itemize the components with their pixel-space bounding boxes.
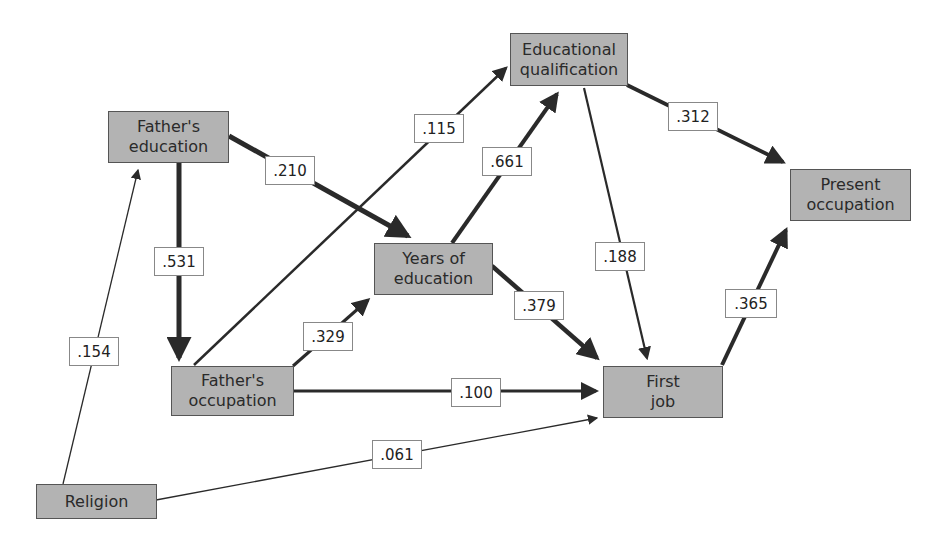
node-present-occupation: Present occupation (790, 169, 911, 221)
node-label-line2: occupation (188, 391, 276, 411)
coef-label-329: .329 (303, 322, 353, 351)
coef-label-061: .061 (372, 440, 422, 469)
node-label-line2: education (394, 269, 473, 289)
node-label-line2: job (651, 392, 675, 412)
node-label-line2: occupation (806, 195, 894, 215)
node-label-line1: Father's (137, 117, 200, 137)
coef-label-379: .379 (514, 291, 564, 320)
edge-educational-qualification-first-job (584, 88, 647, 358)
coef-label-115: .115 (414, 114, 464, 143)
edge-fathers-occupation-educational-qualification (194, 68, 506, 365)
node-label-line2: qualification (520, 60, 618, 80)
coef-label-210: .210 (265, 156, 315, 185)
node-label-line1: Present (820, 175, 880, 195)
node-religion: Religion (36, 484, 157, 519)
node-fathers-education: Father's education (108, 111, 229, 163)
node-label-line1: Educational (522, 40, 616, 60)
node-label-line1: First (646, 372, 680, 392)
coef-label-188: .188 (595, 242, 645, 271)
node-label-line2: education (129, 137, 208, 157)
coef-label-312: .312 (668, 102, 718, 131)
node-label-line1: Religion (65, 492, 129, 512)
node-fathers-occupation: Father's occupation (171, 366, 294, 416)
node-label-line1: Years of (402, 249, 465, 269)
coef-label-661: .661 (482, 147, 532, 176)
edge-religion-fathers-education (63, 170, 138, 484)
coef-label-365: .365 (725, 289, 777, 318)
coef-label-154: .154 (69, 337, 119, 366)
node-label-line1: Father's (201, 371, 264, 391)
coef-label-100: .100 (451, 378, 501, 407)
node-first-job: First job (603, 366, 723, 418)
node-years-of-education: Years of education (374, 243, 493, 295)
node-educational-qualification: Educational qualification (510, 33, 628, 86)
coef-label-531: .531 (154, 247, 204, 276)
